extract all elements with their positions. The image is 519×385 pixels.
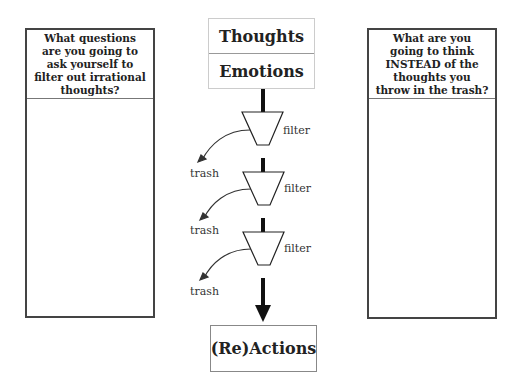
thoughts-box: Thoughts bbox=[209, 19, 314, 53]
emotions-box: Emotions bbox=[209, 53, 314, 88]
arrow-head-icon bbox=[255, 305, 271, 322]
trash-arrow-icon bbox=[200, 189, 251, 220]
filter-label: filter bbox=[284, 182, 311, 195]
reactions-box: (Re)Actions bbox=[210, 325, 317, 372]
filter-label: filter bbox=[284, 242, 311, 255]
filter-funnel-icon bbox=[242, 112, 283, 145]
trash-label: trash bbox=[190, 167, 219, 180]
trash-label: trash bbox=[190, 224, 219, 237]
trash-arrow-icon bbox=[198, 130, 250, 162]
thoughts-emotions-stack: Thoughts Emotions bbox=[208, 18, 315, 89]
trash-label: trash bbox=[190, 285, 219, 298]
trash-arrow-icon bbox=[200, 249, 251, 280]
filter-label: filter bbox=[283, 124, 310, 137]
